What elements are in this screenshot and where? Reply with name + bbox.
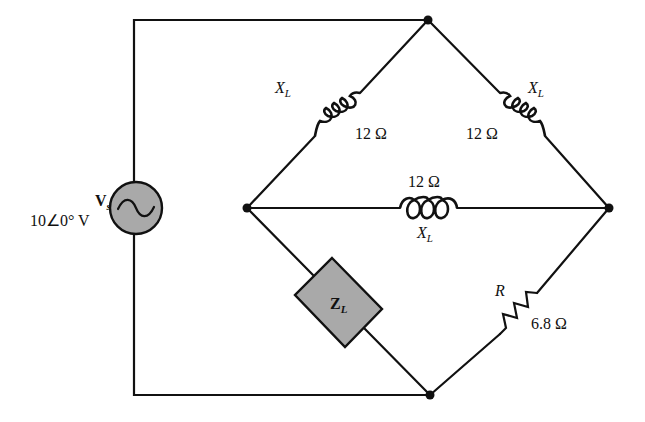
inductor-top-right-value: 12 Ω xyxy=(466,125,498,142)
inductor-top-left-name: XL xyxy=(274,79,291,99)
inductor-top-right xyxy=(428,20,609,208)
node-top xyxy=(424,16,433,25)
inductor-top-left xyxy=(247,20,428,208)
bridge-circuit-diagram: Vs 10∠0° V XL 12 Ω XL 12 Ω 12 Ω XL ZL R … xyxy=(0,0,645,422)
source-value: 10∠0° V xyxy=(30,212,90,229)
resistor xyxy=(430,208,609,395)
source-symbol: Vs xyxy=(95,192,111,212)
resistor-name: R xyxy=(494,282,505,299)
ac-source xyxy=(110,182,162,234)
inductor-top-right-name: XL xyxy=(527,79,544,99)
inductor-middle-value: 12 Ω xyxy=(408,173,440,190)
node-bottom xyxy=(426,391,435,400)
resistor-value: 6.8 Ω xyxy=(531,315,567,332)
inductor-middle xyxy=(247,197,609,218)
inductor-top-left-value: 12 Ω xyxy=(355,125,387,142)
inductor-middle-name: XL xyxy=(416,224,433,244)
node-left xyxy=(243,204,252,213)
node-right xyxy=(605,204,614,213)
